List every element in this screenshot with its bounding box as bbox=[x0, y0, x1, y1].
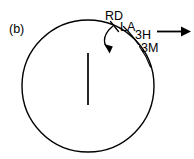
label-3m: 3M bbox=[141, 42, 158, 55]
figure-drawing bbox=[0, 0, 194, 159]
curved-arrow-head-icon bbox=[104, 44, 113, 53]
label-la: LA bbox=[120, 21, 135, 34]
direction-arrow-head-icon bbox=[181, 27, 191, 37]
panel-label: (b) bbox=[9, 23, 24, 36]
figure-panel-b: (b) RD LA 3H 3M bbox=[0, 0, 194, 159]
label-3h: 3H bbox=[135, 29, 151, 42]
